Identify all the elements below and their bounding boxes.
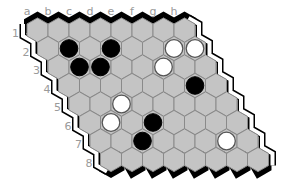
hex-cell-h8[interactable]	[248, 147, 269, 171]
row-label-6: 6	[65, 120, 72, 133]
column-label-g: g	[150, 5, 157, 18]
white-stone-g2	[165, 40, 183, 58]
row-label-5: 5	[54, 101, 61, 114]
hex-cell-f8[interactable]	[206, 147, 227, 171]
column-label-a: a	[24, 5, 31, 18]
hex-cell-c8[interactable]	[143, 147, 164, 171]
row-label-7: 7	[75, 138, 82, 151]
white-stone-c5	[113, 95, 131, 113]
white-stone-f3	[155, 58, 173, 76]
column-label-d: d	[87, 5, 94, 18]
black-stone-g4	[186, 77, 204, 95]
hex-cell-g8[interactable]	[227, 147, 248, 171]
row-label-2: 2	[23, 46, 30, 59]
white-stone-h2	[186, 40, 204, 58]
hex-cell-d8[interactable]	[164, 147, 185, 171]
black-stone-c7	[134, 132, 152, 150]
black-stone-c3	[92, 58, 110, 76]
black-stone-d6	[144, 114, 162, 132]
black-stone-b3	[71, 58, 89, 76]
row-label-1: 1	[12, 27, 19, 40]
column-label-b: b	[45, 5, 52, 18]
row-label-8: 8	[86, 157, 93, 170]
column-label-h: h	[171, 5, 178, 18]
column-label-f: f	[130, 5, 135, 18]
black-stone-b2	[60, 40, 78, 58]
column-label-c: c	[66, 5, 72, 18]
hex-cell-b8[interactable]	[122, 147, 143, 171]
black-stone-d2	[102, 40, 120, 58]
column-label-e: e	[108, 5, 115, 18]
row-label-3: 3	[33, 64, 40, 77]
white-stone-g7	[218, 132, 236, 150]
hex-board: abcdefgh12345678	[0, 0, 294, 195]
white-stone-b6	[102, 114, 120, 132]
hex-cell-a8[interactable]	[101, 147, 122, 171]
row-label-4: 4	[44, 83, 51, 96]
hex-cell-e8[interactable]	[185, 147, 206, 171]
